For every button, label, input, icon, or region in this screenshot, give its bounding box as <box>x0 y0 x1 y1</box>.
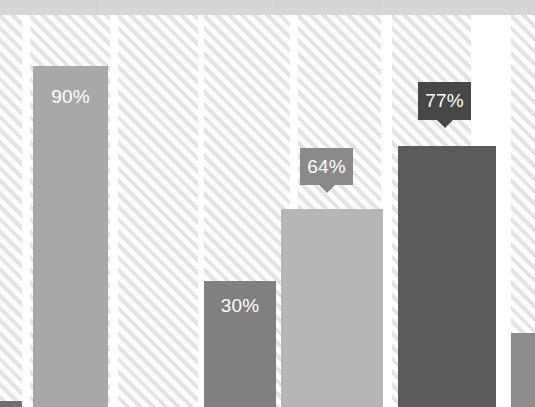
top-gray-band <box>0 0 535 15</box>
callout-77[interactable]: 77% <box>418 82 471 120</box>
callout-label-64: 64% <box>300 148 353 185</box>
callout-pointer-64-icon <box>319 185 335 193</box>
callout-label-77: 77% <box>418 82 471 120</box>
top-band-divider <box>511 0 513 15</box>
bar-30[interactable]: 30% <box>204 281 276 407</box>
bar-64[interactable] <box>281 209 383 407</box>
bar-77[interactable] <box>398 146 496 407</box>
callout-64[interactable]: 64% <box>300 148 353 185</box>
bar-label-30: 30% <box>204 295 276 317</box>
callout-pointer-77-icon <box>437 120 453 128</box>
top-band-divider <box>276 0 278 15</box>
hatch-column <box>118 15 198 407</box>
bar-partial-left[interactable] <box>0 401 22 407</box>
bar-chart: 90% 30% 64% 77% <box>0 0 535 407</box>
top-band-divider <box>96 0 98 15</box>
top-band-divider <box>378 0 380 15</box>
bar-label-90: 90% <box>33 86 108 108</box>
bar-partial-right[interactable] <box>511 333 535 407</box>
bar-90[interactable]: 90% <box>33 66 108 407</box>
hatch-column <box>0 15 22 407</box>
